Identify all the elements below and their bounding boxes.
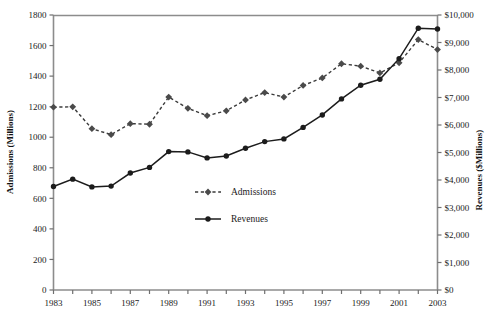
series-layer [50,26,441,190]
data-point-admissions [204,112,211,119]
right-tick-label: $5,000 [445,148,470,158]
data-point-revenues [300,125,305,130]
left-tick-label: 200 [33,255,47,265]
data-point-revenues [147,165,152,170]
data-point-admissions [415,36,422,43]
left-tick-label: 800 [33,163,47,173]
data-point-revenues [435,26,440,31]
y-axis-title: Admissions (Millions) [5,110,15,194]
data-point-revenues [51,184,56,189]
series-line-admissions [54,40,438,135]
left-tick-label: 0 [42,285,47,295]
data-point-revenues [281,136,286,141]
axes [54,15,438,290]
x-tick-label: 1987 [121,298,140,308]
data-point-admissions [127,120,134,127]
left-tick-label: 1200 [29,102,48,112]
data-point-revenues [396,56,401,61]
data-point-admissions [223,107,230,114]
left-tick-label: 400 [33,224,47,234]
x-axis-ticks: 1983198519871989199119931995199719992001… [45,290,448,308]
data-point-admissions [300,82,307,89]
data-point-revenues [204,155,209,160]
right-tick-label: $3,000 [445,203,470,213]
data-point-admissions [242,97,249,104]
right-axis-ticks: $0$1,000$2,000$3,000$4,000$5,000$6,000$7… [438,10,475,295]
x-tick-label: 1989 [160,298,179,308]
right-tick-label: $6,000 [445,120,470,130]
data-point-admissions [357,63,364,70]
dual-axis-line-chart: 020040060080010001200140016001800 $0$1,0… [0,0,492,327]
right-tick-label: $8,000 [445,65,470,75]
data-point-revenues [224,153,229,158]
x-tick-label: 2003 [429,298,448,308]
data-point-revenues [108,183,113,188]
series-line-revenues [54,28,438,187]
legend-swatch-marker-revenues [205,216,210,221]
data-point-revenues [377,77,382,82]
data-point-admissions [89,125,96,132]
data-point-revenues [262,139,267,144]
data-point-revenues [128,170,133,175]
right-tick-label: $2,000 [445,230,470,240]
x-tick-label: 1997 [313,298,332,308]
data-point-revenues [358,82,363,87]
right-tick-label: $9,000 [445,38,470,48]
data-point-revenues [185,149,190,154]
data-point-revenues [339,96,344,101]
data-point-admissions [69,103,76,110]
right-tick-label: $0 [445,285,455,295]
x-tick-label: 1999 [352,298,371,308]
right-tick-label: $1,000 [445,258,470,268]
left-tick-label: 1800 [29,10,48,20]
left-tick-label: 1000 [29,132,48,142]
chart-container: 020040060080010001200140016001800 $0$1,0… [0,0,492,327]
left-axis-ticks: 020040060080010001200140016001800 [29,10,54,295]
data-point-revenues [89,184,94,189]
left-tick-label: 600 [33,194,47,204]
data-point-revenues [416,26,421,31]
right-tick-label: $7,000 [445,93,470,103]
x-tick-label: 1993 [237,298,256,308]
x-tick-label: 2001 [390,298,408,308]
data-point-admissions [108,131,115,138]
right-tick-label: $4,000 [445,175,470,185]
data-point-revenues [166,149,171,154]
data-point-admissions [434,46,441,53]
data-point-admissions [281,94,288,101]
data-point-admissions [377,70,384,77]
data-point-revenues [320,112,325,117]
data-point-admissions [185,105,192,112]
x-tick-label: 1985 [83,298,102,308]
chart-legend: AdmissionsRevenues [195,187,276,224]
legend-label-admissions: Admissions [231,187,276,197]
x-tick-label: 1991 [198,298,216,308]
x-tick-label: 1995 [275,298,294,308]
legend-label-revenues: Revenues [231,214,268,224]
left-tick-label: 1600 [29,41,48,51]
y2-axis-title: Revenues ($Millions) [474,130,484,211]
data-point-revenues [243,146,248,151]
right-tick-label: $10,000 [445,10,475,20]
data-point-revenues [70,176,75,181]
left-tick-label: 1400 [29,71,48,81]
x-tick-label: 1983 [45,298,64,308]
data-point-admissions [261,89,268,96]
legend-swatch-marker-admissions [205,189,212,196]
data-point-admissions [50,104,57,111]
